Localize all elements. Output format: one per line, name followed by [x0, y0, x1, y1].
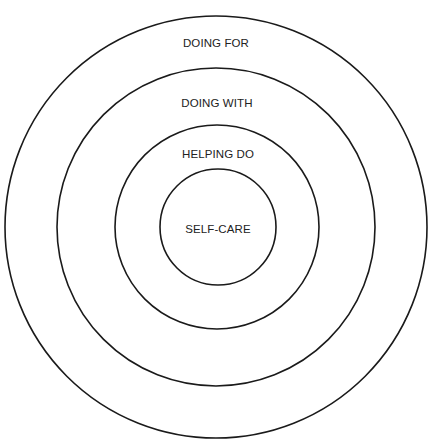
- label-self-care: SELF-CARE: [185, 223, 250, 235]
- label-doing-with: DOING WITH: [181, 97, 252, 109]
- label-doing-for: DOING FOR: [183, 37, 249, 49]
- concentric-circles-diagram: [0, 0, 434, 442]
- label-helping-do: HELPING DO: [182, 148, 254, 160]
